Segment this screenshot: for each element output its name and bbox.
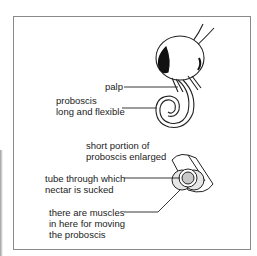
label-palp: palp: [105, 81, 123, 92]
label-muscles-line1: there are muscles: [49, 207, 125, 218]
label-proboscis-line2: long and flexible: [56, 106, 125, 117]
label-enlarged-line1: short portion of: [86, 140, 149, 151]
label-muscles-line2: in here for moving: [49, 218, 125, 229]
label-muscles-line3: the proboscis: [49, 229, 106, 240]
label-enlarged-line2: proboscis enlarged: [86, 151, 166, 162]
label-proboscis-line1: proboscis: [56, 95, 97, 106]
label-tube-line2: nectar is sucked: [45, 184, 114, 195]
label-tube-line1: tube through which: [45, 173, 125, 184]
proboscis-section-icon: [172, 154, 213, 192]
butterfly-head-icon: [156, 24, 214, 127]
diagram-illustration: [0, 0, 257, 256]
